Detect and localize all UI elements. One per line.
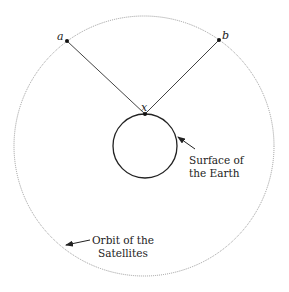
orbit-label-line2: Satellites — [98, 247, 148, 259]
segment-a-x — [67, 41, 145, 114]
label-a: a — [57, 30, 64, 43]
point-a — [65, 39, 69, 43]
earth-label-line1: Surface of — [189, 154, 245, 166]
segment-b-x — [145, 40, 219, 114]
label-b: b — [222, 29, 229, 42]
satellite-orbit-diagram: a b x Surface of the Earth Orbit of the … — [0, 0, 289, 292]
orbit-arrow — [66, 240, 90, 245]
earth-circle — [113, 114, 177, 178]
earth-label-line2: the Earth — [189, 167, 240, 179]
point-b — [217, 38, 221, 42]
earth-arrow — [178, 137, 195, 149]
orbit-label-line1: Orbit of the — [92, 234, 154, 246]
label-x: x — [141, 101, 148, 114]
